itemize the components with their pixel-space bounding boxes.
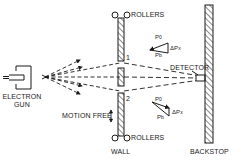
p0-label-bottom: P0	[155, 96, 162, 103]
wall-label: WALL	[111, 148, 130, 156]
electron-beams	[45, 60, 120, 94]
dpx-label-top: ΔPx	[170, 45, 181, 52]
p0-label-top: P0	[155, 34, 162, 41]
pb-label-bottom: Pb	[157, 114, 164, 121]
dpx-label-bottom: ΔPx	[172, 109, 183, 116]
electron-gun-icon	[3, 66, 31, 89]
backstop-label: BACKSTOP	[190, 148, 229, 156]
electron-gun-label: ELECTRON GUN	[0, 93, 44, 109]
rollers-bottom-label: ROLLERS	[131, 134, 164, 142]
electron-gun-label-line1: ELECTRON	[0, 93, 44, 101]
backstop	[205, 5, 213, 143]
detector-icon	[192, 71, 205, 81]
slit-1-label: 1	[126, 54, 130, 62]
gun-muzzle-arrow	[42, 75, 46, 79]
rollers-top-icon	[112, 12, 130, 18]
diagram-canvas	[0, 0, 241, 166]
slit-2-label: 2	[126, 95, 130, 103]
detector-label: DETECTOR	[170, 64, 209, 72]
pb-label-top: Pb	[155, 52, 162, 59]
motion-free-label: MOTION FREE	[62, 112, 112, 120]
electron-gun-label-line2: GUN	[0, 101, 44, 109]
rollers-top-label: ROLLERS	[131, 11, 164, 19]
wall	[118, 18, 124, 136]
